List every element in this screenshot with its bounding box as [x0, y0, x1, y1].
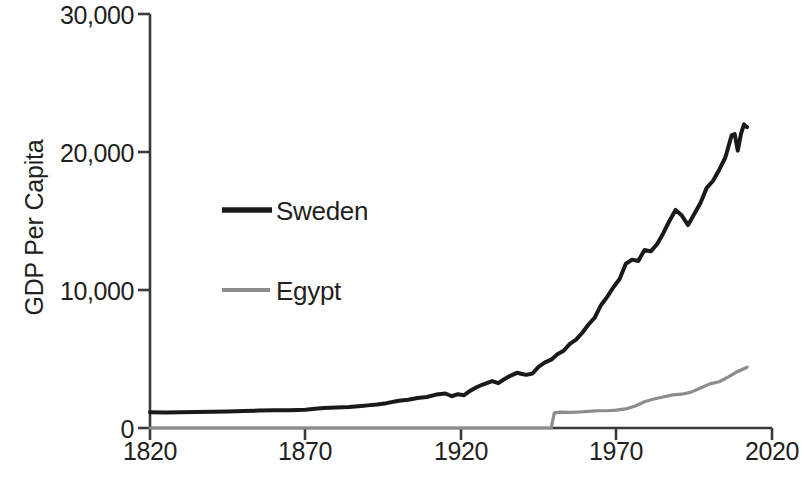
data-series [150, 124, 747, 428]
axes [138, 14, 772, 440]
series-line-egypt [150, 367, 747, 428]
legend-swatches [222, 210, 272, 290]
x-axis-ticks [150, 428, 772, 440]
chart-container: GDP Per Capita 30,000 20,000 10,000 0 18… [0, 0, 808, 479]
series-line-sweden [150, 124, 747, 412]
chart-plot-area [0, 0, 808, 479]
y-axis-ticks [138, 14, 150, 428]
